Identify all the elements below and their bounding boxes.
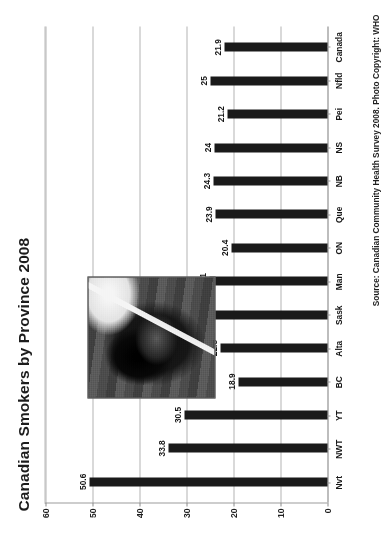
bar-bc[interactable]: 18.9 [238,377,327,386]
x-tick-mark-on [327,247,330,248]
y-tick-mark-30 [186,502,187,506]
x-label-nfld: Nfld [333,72,343,88]
bar-que[interactable]: 23.9 [215,209,327,218]
x-tick-mark-canada [327,46,330,47]
bar-slot-pei: 21.2 [45,97,327,130]
bar-chart-figure: Canadian Smokers by Province 2008 010203… [0,0,385,547]
bar-nfld[interactable]: 25 [210,76,328,85]
x-label-nb: NB [333,175,343,187]
x-tick-mark-bc [327,381,330,382]
plot-area: 0102030405060 50.633.830.518.922.825.525… [44,26,327,503]
x-label-yt: YT [333,410,343,421]
x-label-on: ON [333,241,343,254]
x-label-bc: BC [333,376,343,388]
bar-nb[interactable]: 24.3 [213,176,327,185]
x-label-ns: NS [333,141,343,153]
bar-value-ns: 24 [202,142,212,151]
bar-ns[interactable]: 24 [214,143,327,152]
bar-slot-nwt: 33.8 [45,431,327,464]
bar-value-nb: 24.3 [201,172,211,188]
y-tick-label-40: 40 [134,508,144,536]
bar-series: 50.633.830.518.922.825.525.120.423.924.3… [45,26,327,502]
bar-slot-que: 23.9 [45,197,327,230]
bar-value-nvt: 50.6 [77,473,87,489]
bar-nwt[interactable]: 33.8 [168,443,327,452]
photo-grain-overlay [88,277,214,397]
bar-slot-yt: 30.5 [45,398,327,431]
bar-slot-nfld: 25 [45,64,327,97]
y-tick-label-50: 50 [87,508,97,536]
x-tick-mark-nvt [327,482,330,483]
y-tick-mark-60 [45,502,46,506]
bar-slot-nvt: 50.6 [45,465,327,498]
x-tick-mark-que [327,214,330,215]
page-title: Canadian Smokers by Province 2008 [14,0,32,547]
bar-value-yt: 30.5 [172,406,182,422]
bar-value-bc: 18.9 [226,373,236,389]
x-label-alta: Alta [333,340,343,356]
bar-on[interactable]: 20.4 [231,243,327,252]
x-label-nwt: NWT [333,439,343,458]
source-note: Source: Canadian Community Health Survey… [370,0,380,547]
y-tick-mark-20 [233,502,234,506]
bar-value-que: 23.9 [203,206,213,222]
smoker-photo [87,276,215,398]
x-label-pei: Pei [333,107,343,120]
x-tick-mark-man [327,281,330,282]
y-tick-label-10: 10 [275,508,285,536]
bar-canada[interactable]: 21.9 [224,42,327,51]
bar-alta[interactable]: 22.8 [220,343,327,352]
bar-slot-ns: 24 [45,130,327,163]
x-tick-mark-sask [327,314,330,315]
x-tick-mark-nfld [327,80,330,81]
y-tick-label-20: 20 [228,508,238,536]
bar-slot-on: 20.4 [45,231,327,264]
bar-slot-canada: 21.9 [45,30,327,63]
y-tick-mark-40 [139,502,140,506]
figure-page: Canadian Smokers by Province 2008 010203… [0,0,385,547]
y-tick-label-0: 0 [322,508,332,536]
x-tick-mark-alta [327,348,330,349]
bar-value-canada: 21.9 [212,39,222,55]
bar-yt[interactable]: 30.5 [184,410,327,419]
x-tick-mark-nb [327,180,330,181]
x-tick-mark-ns [327,147,330,148]
y-tick-label-60: 60 [40,508,50,536]
bar-slot-nb: 24.3 [45,164,327,197]
plot-frame: 0102030405060 50.633.830.518.922.825.525… [44,26,327,503]
y-tick-mark-10 [280,502,281,506]
bar-pei[interactable]: 21.2 [227,109,327,118]
x-tick-mark-pei [327,113,330,114]
x-label-sask: Sask [333,305,343,325]
bar-man[interactable]: 25.1 [209,276,327,285]
y-tick-label-30: 30 [181,508,191,536]
x-label-que: Que [333,206,343,222]
x-tick-mark-nwt [327,448,330,449]
bar-value-nwt: 33.8 [156,440,166,456]
bar-value-on: 20.4 [219,239,229,255]
bar-nvt[interactable]: 50.6 [89,477,327,486]
x-label-nvt: Nvt [333,476,343,490]
x-tick-mark-yt [327,415,330,416]
x-label-man: Man [333,273,343,290]
rotated-figure-stage: Canadian Smokers by Province 2008 010203… [0,0,385,547]
x-label-canada: Canada [333,32,343,62]
bar-value-pei: 21.2 [215,106,225,122]
bar-value-nfld: 25 [198,76,208,85]
y-tick-mark-50 [92,502,93,506]
bar-sask[interactable]: 25.5 [207,310,327,319]
